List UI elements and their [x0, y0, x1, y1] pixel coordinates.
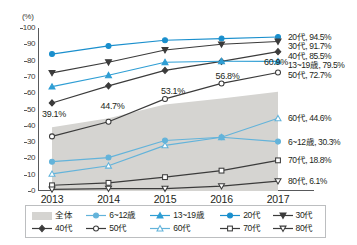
legend-marker-icon [271, 223, 295, 234]
legend-key [84, 210, 108, 221]
y-axis-tick-mark [24, 93, 27, 94]
data-point-marker [106, 43, 111, 48]
x-axis-tick-2014: 2014 [97, 194, 120, 205]
y-axis-tick-mark [24, 142, 27, 143]
data-point-marker [163, 96, 168, 101]
data-point-marker [219, 135, 224, 140]
y-axis-tick-mark [24, 61, 27, 62]
legend-key [148, 223, 172, 234]
legend-marker-icon [148, 223, 172, 234]
data-point-marker [162, 67, 168, 73]
legend-key [218, 223, 242, 234]
chart-legend: 全体6~12歳13~19歳20代30代 40代50代60代70代80代 [25, 205, 326, 238]
end-label-80代: 80代, 6.1% [288, 177, 327, 186]
data-point-marker [106, 155, 111, 160]
y-axis-tick-mark [24, 44, 27, 45]
legend-key [30, 223, 54, 234]
data-point-marker [280, 213, 286, 218]
data-point-marker [276, 70, 281, 75]
area-value-label-2013: 39.1% [42, 110, 66, 119]
area-value-label-2016: 56.8% [215, 72, 239, 81]
legend-item-80代[interactable]: 80代 [271, 222, 321, 235]
data-point-marker [106, 119, 111, 124]
legend-item-50代[interactable]: 50代 [84, 222, 148, 235]
data-point-marker [49, 84, 55, 89]
legend-label: 50代 [109, 224, 127, 233]
data-point-marker [275, 49, 281, 55]
legend-item-70代[interactable]: 70代 [218, 222, 270, 235]
data-point-marker [276, 158, 281, 163]
legend-label: 60代 [173, 224, 191, 233]
data-point-marker [50, 134, 55, 139]
legend-marker-icon [271, 210, 295, 221]
data-point-marker [162, 59, 168, 64]
legend-item-6~12歳[interactable]: 6~12歳 [84, 209, 148, 222]
legend-item-20代[interactable]: 20代 [218, 209, 270, 222]
y-axis-tick-60: 60 [27, 89, 35, 97]
y-axis-tick-mark [24, 126, 27, 127]
end-label-70代: 70代, 18.8% [288, 156, 331, 165]
data-point-marker [94, 213, 99, 218]
data-point-marker [106, 72, 112, 77]
y-axis-tick-mark [24, 110, 27, 111]
data-point-marker [49, 70, 55, 75]
legend-label: 13~19歳 [173, 211, 204, 220]
data-point-marker [50, 159, 55, 164]
y-axis-tick-40: 40 [27, 122, 35, 130]
y-axis-tick-mark [24, 175, 27, 176]
data-point-marker [49, 187, 55, 192]
data-point-marker [49, 100, 55, 106]
area-value-label-2015: 53.1% [161, 87, 185, 96]
legend-marker-icon [148, 210, 172, 221]
data-point-marker [219, 58, 225, 63]
data-point-marker [219, 168, 224, 173]
y-axis-tick-0: 0 [31, 187, 35, 195]
y-axis-unit-label: (%) [22, 12, 34, 21]
legend-key [30, 210, 54, 221]
y-axis-tick-mark [24, 77, 27, 78]
end-label-6~12歳: 6~12歳, 30.3% [288, 137, 340, 146]
legend-label: 80代 [296, 224, 314, 233]
legend-marker-icon [30, 223, 54, 234]
y-axis-tick-90: 90 [27, 40, 35, 48]
data-point-marker [280, 226, 286, 231]
legend-marker-icon [84, 210, 108, 221]
legend-marker-icon [218, 223, 242, 234]
data-point-marker [219, 42, 225, 47]
data-point-marker [163, 175, 168, 180]
x-axis-tick-2017: 2017 [267, 194, 290, 205]
y-axis-tick-70: 70 [27, 73, 35, 81]
legend-item-30代[interactable]: 30代 [271, 209, 321, 222]
data-point-marker [219, 81, 224, 86]
legend-key [218, 210, 242, 221]
legend-marker-icon [84, 223, 108, 234]
y-axis-tick-80: 80 [27, 57, 35, 65]
x-axis-tick-2013: 2013 [41, 194, 64, 205]
legend-key [148, 210, 172, 221]
legend-label: 40代 [55, 224, 73, 233]
data-point-marker [163, 138, 168, 143]
data-point-marker [162, 48, 168, 53]
data-point-marker [94, 226, 99, 231]
y-axis-tick-mark [28, 191, 31, 192]
data-point-marker [39, 225, 45, 231]
y-axis-tick-30: 30 [27, 138, 35, 146]
data-point-marker [106, 60, 112, 65]
x-axis-tick-2016: 2016 [210, 194, 233, 205]
legend-item-60代[interactable]: 60代 [148, 222, 218, 235]
legend-item-13~19歳[interactable]: 13~19歳 [148, 209, 218, 222]
legend-label: 70代 [243, 224, 261, 233]
data-point-marker [228, 213, 233, 218]
legend-label: 6~12歳 [109, 211, 136, 220]
legend-item-全体[interactable]: 全体 [30, 209, 84, 222]
legend-key [271, 223, 295, 234]
x-axis-tick-2015: 2015 [154, 194, 177, 205]
legend-row-1: 全体6~12歳13~19歳20代30代 [30, 209, 321, 222]
legend-item-40代[interactable]: 40代 [30, 222, 84, 235]
legend-label: 20代 [243, 211, 261, 220]
legend-row-2: 40代50代60代70代80代 [30, 222, 321, 235]
area-value-label-2017: 60.9% [264, 57, 288, 66]
data-point-marker [106, 180, 111, 185]
legend-key [271, 210, 295, 221]
data-point-marker [157, 213, 163, 218]
